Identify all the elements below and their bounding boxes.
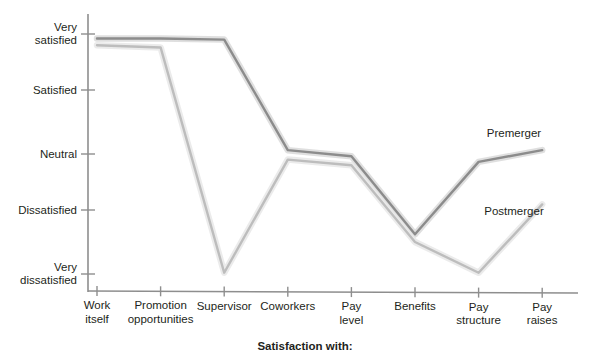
x-axis-caption: Satisfaction with:	[0, 340, 590, 352]
y-axis-tick-label: Satisfied	[0, 84, 77, 97]
y-axis-tick-label: Dissatisfied	[0, 204, 77, 217]
y-axis-tick-label: Neutral	[0, 148, 77, 161]
series-label-postmerger: Postmerger	[484, 205, 543, 217]
satisfaction-line-chart: Very satisfiedSatisfiedNeutralDissatisfi…	[0, 0, 590, 359]
series-line-postmerger	[97, 45, 542, 273]
y-axis-tick-label: Very satisfied	[0, 21, 77, 47]
x-axis-line	[88, 291, 578, 293]
y-axis-tick-label: Very dissatisfied	[0, 261, 77, 287]
series-line-halo-postmerger	[97, 45, 542, 273]
series-label-premerger: Premerger	[487, 127, 541, 139]
x-axis-tick-label: Pay raises	[496, 301, 588, 328]
series-lines	[97, 38, 542, 272]
